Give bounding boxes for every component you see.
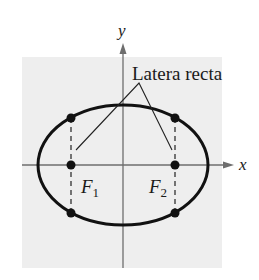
latus-endpoint-bottom-left <box>67 209 76 218</box>
focus-1-name: F <box>80 176 93 197</box>
latera-recta-label: Latera recta <box>132 63 223 84</box>
y-axis-arrow-icon <box>120 43 127 54</box>
y-axis-label: y <box>116 21 126 40</box>
focus-1-point <box>67 161 76 170</box>
focus-2-subscript: 2 <box>161 185 168 200</box>
graph-panel <box>22 57 222 268</box>
latus-endpoint-top-left <box>67 114 76 123</box>
ellipse-latera-recta-diagram: y x Latera recta F1 F2 <box>0 0 259 280</box>
focus-2-point <box>171 161 180 170</box>
latus-endpoint-top-right <box>171 114 180 123</box>
x-axis-arrow-icon <box>223 162 234 169</box>
x-axis-label: x <box>238 155 247 174</box>
focus-2-name: F <box>148 176 161 197</box>
latus-endpoint-bottom-right <box>171 209 180 218</box>
focus-1-subscript: 1 <box>93 185 100 200</box>
